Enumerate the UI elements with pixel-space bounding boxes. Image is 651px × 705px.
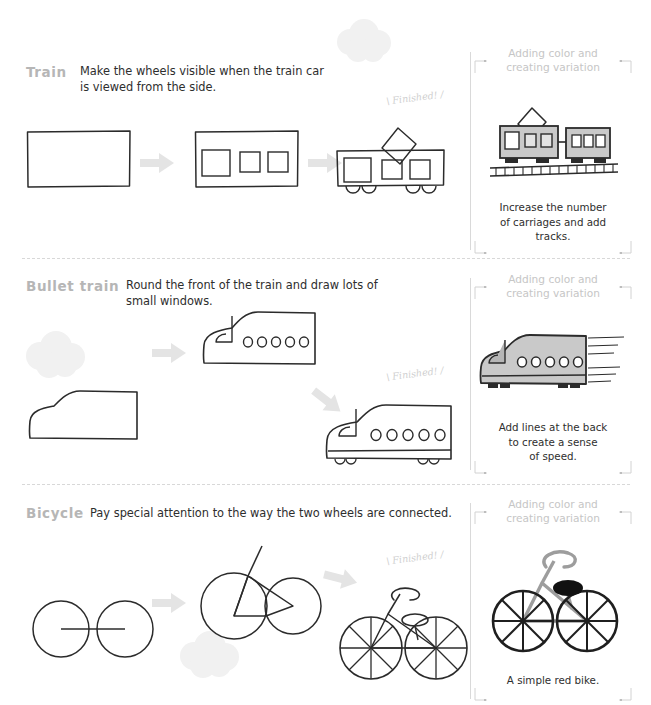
finished-slash-right: / <box>440 549 445 560</box>
section-description-train: Make the wheels visible when the train c… <box>80 64 410 95</box>
finished-label-bullet-train: \ Finished! / <box>386 365 445 383</box>
variation-caption-bullet-train: Add lines at the back to create a sense … <box>478 420 628 464</box>
step-bullet-1-rounded-nose-body <box>24 384 144 446</box>
step-train-1-plain-rectangle-body <box>24 128 134 190</box>
finished-slash-right: / <box>440 365 445 376</box>
section-description-bicycle: Pay special attention to the way the two… <box>90 506 470 522</box>
step-arrow-1-bicycle <box>152 592 188 614</box>
panel-left-rule <box>470 503 471 699</box>
step-bullet-2-body-with-cockpit-and-windows <box>196 306 320 372</box>
variation-caption-bicycle: A simple red bike. <box>478 673 628 688</box>
variation-art-gray-bullet-train-with-speed-lines <box>478 328 630 394</box>
finished-slash-right: / <box>440 89 445 100</box>
variation-art-gray-bicycle-with-black-saddle <box>490 543 620 655</box>
step-arrow-1-train <box>140 152 176 174</box>
step-bicycle-3-bicycle-with-spokes-handlebar-saddle <box>336 580 470 682</box>
step-bicycle-2-wheels-with-frame-and-seatpost <box>196 536 322 646</box>
step-train-3-train-with-wheels-and-pantograph <box>332 108 456 200</box>
section-title-bicycle: Bicycle <box>26 505 84 521</box>
step-bicycle-1-two-wheels-with-axle <box>30 596 156 662</box>
panel-left-rule <box>470 278 471 470</box>
step-bullet-3-bullet-train-with-wheels <box>320 396 462 472</box>
section-bicycle: Bicycle Pay special attention to the way… <box>0 484 651 705</box>
step-arrow-1-bullet <box>152 342 188 364</box>
finished-slash-left: \ <box>386 371 391 382</box>
panel-left-rule <box>470 52 471 250</box>
variation-panel-bullet-train: Adding color and creating variation <box>472 270 634 474</box>
variation-panel-train: Adding color and creating variation <box>472 44 634 254</box>
finished-slash-left: \ <box>386 555 391 566</box>
variation-panel-bicycle: Adding color and creating variation <box>472 495 634 701</box>
variation-art-gray-train-two-carriages-on-track <box>488 98 622 184</box>
finished-slash-left: \ <box>386 95 391 106</box>
section-title-bullet-train: Bullet train <box>26 278 119 294</box>
step-train-2-body-with-windows <box>192 128 302 190</box>
section-train: Train Make the wheels visible when the t… <box>0 0 651 258</box>
section-bullet-train: Bullet train Round the front of the trai… <box>0 258 651 484</box>
finished-label-bicycle: \ Finished! / <box>386 549 445 567</box>
variation-caption-train: Increase the number of carriages and add… <box>478 200 628 244</box>
section-description-bullet-train: Round the front of the train and draw lo… <box>126 278 446 309</box>
worksheet-page: { "page": { "title": "How to draw vehicl… <box>0 0 651 705</box>
section-title-train: Train <box>26 64 67 80</box>
